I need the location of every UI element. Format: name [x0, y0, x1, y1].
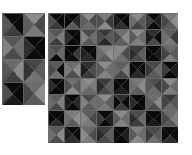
- tile-cell: [64, 127, 80, 143]
- left-tiling-svg: [2, 13, 45, 105]
- tile-cell: [162, 46, 178, 62]
- tile-cell: [113, 111, 129, 127]
- tile-cell: [162, 78, 178, 94]
- tile-cell: [81, 78, 97, 94]
- tile-cell: [113, 29, 129, 45]
- tile-cell: [48, 62, 64, 78]
- tile-cell: [129, 62, 145, 78]
- tile-cell: [64, 111, 80, 127]
- tile-cell: [113, 127, 129, 143]
- tile-cell: [162, 94, 178, 110]
- tile-cell: [48, 29, 64, 45]
- tile-cell: [2, 13, 24, 36]
- tile-cell: [48, 46, 64, 62]
- tile-cell: [64, 62, 80, 78]
- tile-cell: [24, 36, 46, 59]
- tile-cell: [129, 111, 145, 127]
- tile-cell: [113, 78, 129, 94]
- tile-cell: [162, 29, 178, 45]
- right-tiling-panel: [48, 13, 178, 143]
- tile-cell: [113, 62, 129, 78]
- tile-cell: [113, 13, 129, 29]
- tile-cell: [97, 111, 113, 127]
- tile-cell: [2, 82, 24, 105]
- tile-cell: [48, 13, 64, 29]
- tile-cell: [129, 78, 145, 94]
- tile-cell: [48, 127, 64, 143]
- tile-cell: [129, 46, 145, 62]
- tile-cell: [81, 111, 97, 127]
- tile-cell: [64, 46, 80, 62]
- tile-cell: [113, 94, 129, 110]
- tile-cell: [162, 111, 178, 127]
- tile-cell: [81, 127, 97, 143]
- tile-cell: [146, 127, 162, 143]
- tile-cell: [48, 111, 64, 127]
- tile-cell: [64, 29, 80, 45]
- tile-cell: [97, 29, 113, 45]
- tile-cell: [81, 62, 97, 78]
- tile-cell: [146, 62, 162, 78]
- tile-cell: [146, 13, 162, 29]
- tile-cell: [162, 13, 178, 29]
- tile-cell: [97, 127, 113, 143]
- tile-cell: [64, 78, 80, 94]
- tile-cell: [146, 111, 162, 127]
- tile-cell: [97, 94, 113, 110]
- tile-cell: [113, 46, 129, 62]
- left-tiling-panel: [2, 13, 45, 105]
- tile-cell: [97, 62, 113, 78]
- tile-cell: [81, 13, 97, 29]
- tile-cell: [2, 36, 24, 59]
- tile-cell: [129, 127, 145, 143]
- figure-canvas: [0, 0, 192, 155]
- tile-cell: [129, 13, 145, 29]
- tile-cell: [2, 59, 24, 82]
- tile-cell: [48, 94, 64, 110]
- tile-cell: [81, 29, 97, 45]
- tile-cell: [64, 94, 80, 110]
- tile-cell: [146, 94, 162, 110]
- tile-cell: [64, 13, 80, 29]
- tile-cell: [81, 94, 97, 110]
- tile-cell: [162, 127, 178, 143]
- tile-cell: [146, 78, 162, 94]
- tile-cell: [97, 46, 113, 62]
- tile-cell: [81, 46, 97, 62]
- right-tiling-svg: [48, 13, 178, 143]
- tile-cell: [24, 59, 46, 82]
- tile-cell: [129, 94, 145, 110]
- tile-cell: [97, 13, 113, 29]
- tile-cell: [24, 13, 46, 36]
- tile-cell: [24, 82, 46, 105]
- tile-cell: [162, 62, 178, 78]
- tile-cell: [97, 78, 113, 94]
- tile-cell: [146, 46, 162, 62]
- tile-cell: [48, 78, 64, 94]
- tile-cell: [146, 29, 162, 45]
- tile-cell: [129, 29, 145, 45]
